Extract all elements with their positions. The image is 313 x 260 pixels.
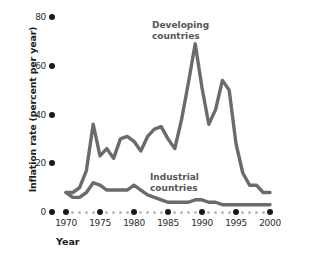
inflation-rate-chart: Inflation rate (percent per year) 80 60 … — [0, 0, 313, 260]
line-series-industrial — [66, 183, 270, 205]
chart-plot-area — [0, 0, 313, 260]
line-series-developing — [66, 44, 270, 193]
